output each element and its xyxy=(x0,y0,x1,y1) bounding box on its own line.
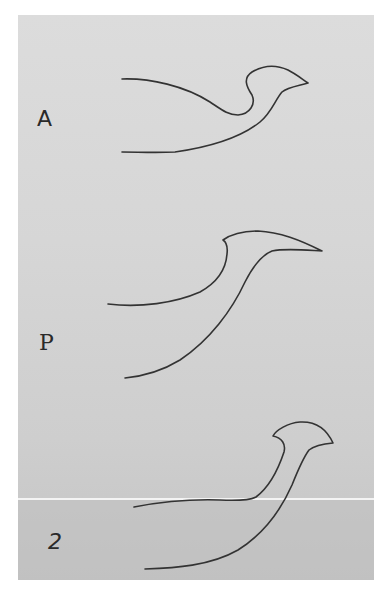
profile-curve-2 xyxy=(134,422,333,569)
profile-drawings xyxy=(0,0,387,598)
panel-label-p: P xyxy=(39,332,54,354)
profile-curve-a xyxy=(122,66,308,152)
panel-label-2: 2 xyxy=(48,531,62,553)
panel-label-a: A xyxy=(37,108,52,130)
profile-curve-p xyxy=(108,231,322,378)
